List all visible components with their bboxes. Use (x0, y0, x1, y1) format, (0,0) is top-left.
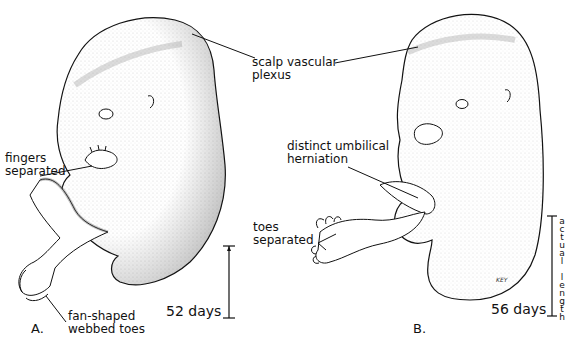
panel-b-letter: B. (413, 322, 426, 335)
scale-bar-b (547, 216, 557, 316)
umbilical-herniation-label: distinct umbilical herniation (287, 140, 389, 166)
toes-separated-label: toes separated (253, 221, 314, 247)
embryo-illustration (0, 0, 571, 342)
panel-a-age: 52 days (166, 305, 221, 318)
fingers-separated-label: fingers separated (5, 152, 66, 178)
leader-webbed-toes (46, 296, 66, 322)
scale-bar-a (223, 246, 235, 318)
artist-signature: KEY (496, 276, 507, 283)
scalp-vascular-label: scalp vascular plexus (252, 56, 338, 82)
actual-length-label: actual length (557, 217, 567, 321)
panel-a-letter: A. (31, 322, 44, 335)
webbed-toes-label: fan-shaped webbed toes (68, 310, 145, 336)
panel-b-age: 56 days (491, 303, 546, 316)
